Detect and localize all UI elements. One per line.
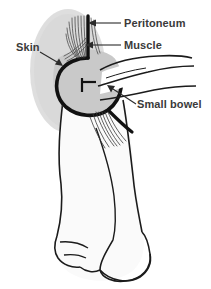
body-outline-shape [55, 100, 151, 282]
label-skin: Skin [16, 41, 40, 53]
label-small-bowel: Small bowel [137, 98, 202, 110]
hernia-diagram: Peritoneum Muscle Skin Small bowel [0, 0, 211, 289]
label-muscle: Muscle [124, 39, 162, 51]
anatomy-illustration: Peritoneum Muscle Skin Small bowel [0, 0, 211, 289]
label-peritoneum: Peritoneum [124, 17, 186, 29]
